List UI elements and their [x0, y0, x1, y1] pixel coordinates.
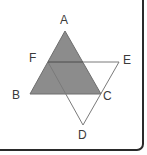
label-d: D — [78, 128, 87, 142]
label-e: E — [123, 53, 131, 67]
label-f: F — [29, 51, 36, 65]
label-b: B — [12, 88, 20, 102]
label-c: C — [103, 89, 112, 103]
geometry-diagram: A B C D E F — [0, 0, 147, 155]
label-a: A — [60, 13, 68, 27]
